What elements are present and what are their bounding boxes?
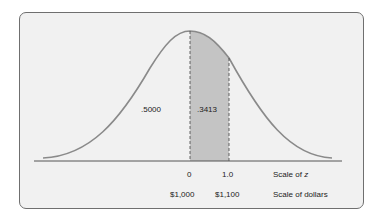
z-scale-label: Scale of z: [273, 170, 308, 179]
z-scale-text: Scale of: [273, 170, 304, 179]
shaded-area-label: .3413: [197, 105, 217, 114]
dollar-scale-label: Scale of dollars: [273, 190, 328, 199]
dollar-tick-1: $1,100: [215, 190, 239, 199]
dollar-tick-0: $1,000: [170, 190, 194, 199]
z-tick-1: 1.0: [222, 170, 233, 179]
bell-curve: [43, 31, 332, 158]
normal-curve-diagram: [0, 0, 386, 221]
left-area-label: .5000: [141, 105, 161, 114]
z-variable: z: [304, 170, 308, 179]
z-tick-0: 0: [187, 170, 191, 179]
